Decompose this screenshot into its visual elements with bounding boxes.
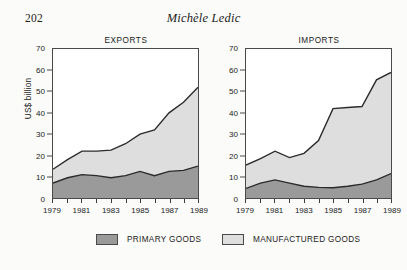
- x-tick-mark: [363, 199, 364, 203]
- x-tick-mark: [52, 199, 53, 203]
- y-tick-label: 50: [19, 87, 45, 96]
- x-tick-mark: [304, 199, 305, 203]
- chart-title-imports: IMPORTS: [245, 36, 393, 45]
- y-tick-label: 40: [19, 108, 45, 117]
- x-tick-mark: [319, 199, 320, 203]
- page-header: 202 Michèle Ledic: [0, 0, 407, 34]
- x-tick-mark: [155, 199, 156, 203]
- y-tick-label: 20: [212, 151, 238, 160]
- x-tick-mark: [289, 199, 290, 203]
- legend-label-manufactured-goods: MANUFACTURED GOODS: [253, 235, 360, 244]
- y-tick-label: 60: [19, 65, 45, 74]
- y-tick-label: 0: [19, 195, 45, 204]
- trade-composition-figure: EXPORTS US$ billion 010203040506070 1979…: [0, 34, 407, 270]
- stacked-area-imports: [246, 49, 391, 198]
- x-tick-mark: [140, 199, 141, 203]
- x-tick-mark: [348, 199, 349, 203]
- x-tick-label: 1987: [161, 206, 179, 215]
- x-tick-label: 1985: [131, 206, 149, 215]
- y-tick-label: 70: [19, 44, 45, 53]
- y-tick-label: 50: [212, 87, 238, 96]
- x-tick-label: 1987: [354, 206, 372, 215]
- x-tick-label: 1981: [265, 206, 283, 215]
- legend-swatch-manufactured-goods: [222, 234, 244, 245]
- x-tick-label: 1983: [102, 206, 120, 215]
- plot-area-exports: [52, 48, 199, 199]
- x-axis-imports: 197919811983198519871989: [245, 199, 392, 227]
- y-tick-label: 30: [212, 130, 238, 139]
- x-tick-mark: [391, 199, 392, 203]
- x-tick-mark: [67, 199, 68, 203]
- y-tick-label: 10: [19, 173, 45, 182]
- x-tick-mark: [333, 199, 334, 203]
- x-tick-mark: [274, 199, 275, 203]
- plot-area-imports: [245, 48, 392, 199]
- x-tick-label: 1989: [190, 206, 208, 215]
- y-axis-imports: 010203040506070: [207, 48, 245, 199]
- area-manufactured-goods: [246, 72, 391, 198]
- y-tick-label: 70: [212, 44, 238, 53]
- legend-item-primary-goods: PRIMARY GOODS: [96, 234, 201, 245]
- y-tick-label: 40: [212, 108, 238, 117]
- x-tick-mark: [111, 199, 112, 203]
- y-tick-label: 10: [212, 173, 238, 182]
- x-tick-mark: [170, 199, 171, 203]
- x-tick-label: 1989: [383, 206, 401, 215]
- x-tick-mark: [260, 199, 261, 203]
- x-tick-mark: [245, 199, 246, 203]
- y-tick-label: 0: [212, 195, 238, 204]
- x-tick-mark: [81, 199, 82, 203]
- x-tick-mark: [96, 199, 97, 203]
- x-tick-mark: [126, 199, 127, 203]
- y-axis-exports: 010203040506070: [14, 48, 52, 199]
- y-tick-label: 20: [19, 151, 45, 160]
- x-tick-mark: [184, 199, 185, 203]
- x-tick-label: 1985: [324, 206, 342, 215]
- x-tick-label: 1979: [236, 206, 254, 215]
- chart-panel-exports: EXPORTS US$ billion 010203040506070 1979…: [14, 34, 200, 230]
- x-tick-label: 1983: [295, 206, 313, 215]
- legend-item-manufactured-goods: MANUFACTURED GOODS: [222, 234, 360, 245]
- x-axis-exports: 197919811983198519871989: [52, 199, 199, 227]
- legend-swatch-primary-goods: [96, 234, 118, 245]
- legend-label-primary-goods: PRIMARY GOODS: [127, 235, 201, 244]
- x-tick-mark: [198, 199, 199, 203]
- x-tick-mark: [377, 199, 378, 203]
- running-head-author: Michèle Ledic: [0, 11, 407, 26]
- stacked-area-exports: [53, 49, 198, 198]
- chart-title-exports: EXPORTS: [52, 36, 200, 45]
- x-tick-label: 1981: [72, 206, 90, 215]
- y-tick-label: 60: [212, 65, 238, 74]
- y-tick-label: 30: [19, 130, 45, 139]
- chart-legend: PRIMARY GOODS MANUFACTURED GOODS: [0, 234, 407, 258]
- x-tick-label: 1979: [43, 206, 61, 215]
- chart-panel-imports: IMPORTS 010203040506070 1979198119831985…: [207, 34, 393, 230]
